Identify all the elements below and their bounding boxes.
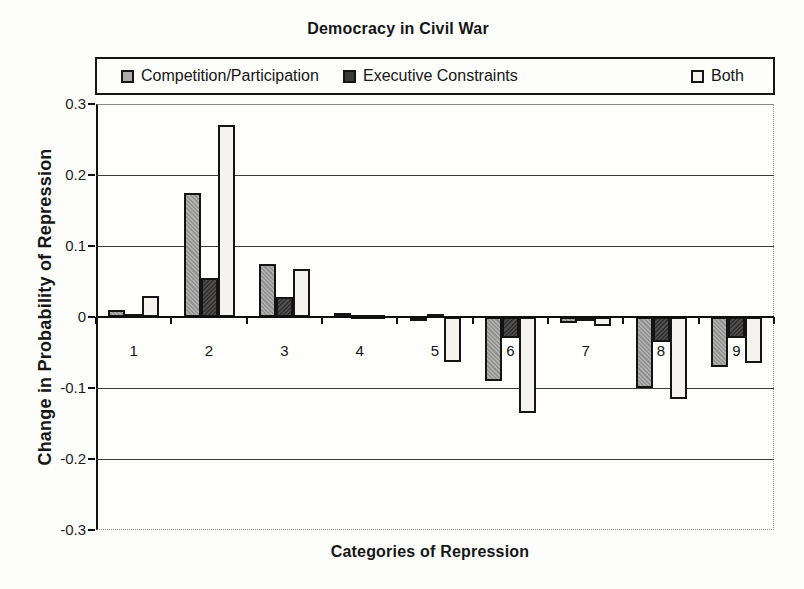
bar-executive-constraints-cat3 [276, 297, 293, 317]
y-tick-mark [88, 458, 95, 460]
legend-swatch-both [691, 70, 704, 83]
x-tick-mark [396, 317, 398, 324]
legend-swatch-competition-participation [121, 70, 134, 83]
category-label: 3 [264, 342, 304, 359]
chart-title: Democracy in Civil War [58, 20, 738, 38]
y-tick-label: 0.2 [34, 166, 86, 183]
x-tick-mark [246, 317, 248, 324]
bar-executive-constraints-cat6 [502, 317, 519, 338]
y-tick-mark [88, 174, 95, 176]
x-tick-mark [170, 317, 172, 324]
gridline [96, 459, 774, 460]
y-tick-label: -0.2 [34, 450, 86, 467]
x-tick-mark [547, 317, 549, 324]
y-tick-label: -0.3 [34, 521, 86, 538]
y-tick-mark [88, 387, 95, 389]
legend-item-competition-participation: Competition/Participation [121, 59, 319, 93]
legend-swatch-executive-constraints [343, 70, 356, 83]
x-tick-mark [773, 317, 775, 324]
gridline [96, 175, 774, 176]
x-axis-zero-line [96, 316, 774, 318]
bar-competition-participation-cat3 [259, 264, 276, 317]
legend-label: Executive Constraints [363, 67, 518, 85]
y-tick-mark [88, 103, 95, 105]
bar-executive-constraints-cat8 [653, 317, 670, 342]
category-label: 4 [340, 342, 380, 359]
category-label: 1 [114, 342, 154, 359]
legend: Competition/Participation Executive Cons… [95, 57, 775, 95]
y-axis-title: Change in Probability of Repression [35, 148, 56, 465]
y-tick-mark [88, 316, 95, 318]
y-tick-mark [88, 245, 95, 247]
x-tick-mark [95, 317, 97, 324]
category-label: 7 [566, 342, 606, 359]
legend-label: Competition/Participation [141, 67, 319, 85]
scanned-bar-chart-figure: Democracy in Civil War Competition/Parti… [0, 0, 804, 589]
y-tick-label: 0.3 [34, 95, 86, 112]
bar-both-cat3 [293, 269, 310, 317]
bar-both-cat6 [519, 317, 536, 413]
bar-competition-participation-cat2 [184, 193, 201, 317]
category-label: 2 [189, 342, 229, 359]
bar-executive-constraints-cat9 [728, 317, 745, 338]
y-tick-mark [88, 529, 95, 531]
bar-both-cat2 [218, 125, 235, 317]
legend-item-both: Both [691, 59, 744, 93]
legend-label: Both [711, 67, 744, 85]
category-label: 8 [641, 342, 681, 359]
y-tick-label: 0.1 [34, 237, 86, 254]
category-label: 5 [415, 342, 455, 359]
bar-both-cat7 [594, 317, 611, 326]
category-label: 9 [716, 342, 756, 359]
y-tick-label: 0 [34, 308, 86, 325]
y-tick-label: -0.1 [34, 379, 86, 396]
x-tick-mark [622, 317, 624, 324]
x-tick-mark [698, 317, 700, 324]
category-label: 6 [490, 342, 530, 359]
x-tick-mark [472, 317, 474, 324]
bar-executive-constraints-cat2 [201, 278, 218, 317]
legend-item-executive-constraints: Executive Constraints [343, 59, 518, 93]
bar-both-cat1 [142, 296, 159, 317]
x-tick-mark [321, 317, 323, 324]
x-axis-title: Categories of Repression [130, 543, 730, 561]
